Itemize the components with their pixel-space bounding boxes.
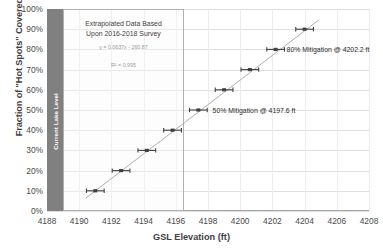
gridline-horizontal [47,211,369,212]
y-axis-tick-label: 0% [9,206,43,216]
y-axis-tick-label: 20% [9,166,43,176]
y-axis-tick-label: 30% [9,145,43,155]
data-point [296,27,314,31]
x-axis-title: GSL Elevation (ft) [0,232,383,242]
x-axis-tick-label: 4208 [349,216,383,226]
data-point [138,148,156,152]
y-axis-tick-label: 10% [9,186,43,196]
mitigation-50-label: 50% Mitigation @ 4197.6 ft [213,107,296,114]
data-series [47,9,369,211]
gridline-vertical [369,9,370,211]
y-axis-tick-label: 50% [9,105,43,115]
y-axis-tick-label: 70% [9,65,43,75]
y-axis-tick-label: 100% [9,4,43,14]
y-axis-tick-label: 80% [9,44,43,54]
data-point [215,88,233,92]
plot-area: Current Lake Level Extrapolated Data Bas… [47,9,369,211]
y-axis-tick-label: 40% [9,125,43,135]
data-point [112,168,130,172]
chart-container: Fraction of "Hot Spots" Covered by Water… [0,0,383,249]
y-axis-tick-label: 60% [9,85,43,95]
data-point [86,189,104,193]
data-point [164,128,182,132]
y-axis-tick-label: 90% [9,24,43,34]
mitigation-80-label: 80% Mitigation @ 4202.2 ft [287,46,370,53]
data-point [189,108,207,112]
